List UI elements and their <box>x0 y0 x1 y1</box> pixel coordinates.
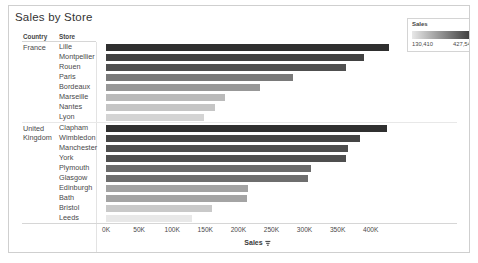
x-axis-tick-label: 200K <box>231 226 246 233</box>
x-axis-tick-label: 300K <box>297 226 312 233</box>
store-label[interactable]: Paris <box>59 72 76 82</box>
legend-max-value: 427,549 <box>453 41 470 47</box>
store-label[interactable]: Lille <box>59 42 72 52</box>
store-label[interactable]: Nantes <box>59 102 82 112</box>
bar-mark[interactable] <box>106 104 215 111</box>
x-axis[interactable]: Sales 0K50K100K150K200K250K300K350K400K <box>9 224 470 253</box>
column-header-store[interactable]: Store <box>59 33 75 40</box>
table-row[interactable]: Edinburgh <box>9 183 470 193</box>
store-label[interactable]: Montpellier <box>59 52 95 62</box>
store-label[interactable]: Clapham <box>59 123 88 133</box>
country-label[interactable]: UnitedKingdom <box>23 124 52 142</box>
table-row[interactable]: Bordeaux <box>9 82 470 92</box>
store-label[interactable]: York <box>59 153 73 163</box>
bar-mark[interactable] <box>106 165 311 172</box>
x-axis-tick-label: 100K <box>164 226 179 233</box>
table-row[interactable]: Bath <box>9 193 470 203</box>
bar-mark[interactable] <box>106 135 360 142</box>
table-row[interactable]: York <box>9 153 470 163</box>
legend-gradient-bar <box>412 31 470 39</box>
store-label[interactable]: Glasgow <box>59 173 87 183</box>
country-label-line: United <box>23 124 52 133</box>
legend-title: Sales <box>412 21 428 27</box>
worksheet-frame: Sales by Store Country Store LilleMontpe… <box>8 5 470 253</box>
x-axis-tick-label: 0K <box>102 226 110 233</box>
bar-mark[interactable] <box>106 215 192 222</box>
store-label[interactable]: Bristol <box>59 203 79 213</box>
bar-mark[interactable] <box>106 64 346 71</box>
store-label[interactable]: Bordeaux <box>59 82 90 92</box>
table-row[interactable]: Manchester <box>9 143 470 153</box>
table-row[interactable]: Leeds <box>9 213 470 223</box>
axis-title-sales[interactable]: Sales <box>244 239 271 247</box>
store-label[interactable]: Leeds <box>59 213 79 223</box>
table-row[interactable]: Paris <box>9 72 470 82</box>
table-row[interactable]: Lyon <box>9 112 470 122</box>
country-label[interactable]: France <box>23 43 46 52</box>
bar-mark[interactable] <box>106 205 212 212</box>
bar-mark[interactable] <box>106 195 247 202</box>
bar-mark[interactable] <box>106 84 260 91</box>
bar-mark[interactable] <box>106 125 387 132</box>
x-axis-tick-label: 50K <box>133 226 145 233</box>
store-label[interactable]: Bath <box>59 193 74 203</box>
table-row[interactable]: Wimbledon <box>9 133 470 143</box>
country-label-line: Kingdom <box>23 133 52 142</box>
bar-mark[interactable] <box>106 155 346 162</box>
bar-mark[interactable] <box>106 44 389 51</box>
bar-mark[interactable] <box>106 114 204 121</box>
table-row[interactable]: Bristol <box>9 203 470 213</box>
bar-mark[interactable] <box>106 175 308 182</box>
table-row[interactable]: Rouen <box>9 62 470 72</box>
column-header-country[interactable]: Country <box>23 33 47 40</box>
chart-pane: LilleMontpellierRouenParisBordeauxMarsei… <box>9 42 470 224</box>
page-title: Sales by Store <box>15 11 93 23</box>
store-label[interactable]: Marseille <box>59 92 88 102</box>
table-row[interactable]: Nantes <box>9 102 470 112</box>
bar-mark[interactable] <box>106 145 348 152</box>
bar-mark[interactable] <box>106 185 248 192</box>
x-axis-tick-label: 350K <box>330 226 345 233</box>
store-label[interactable]: Lyon <box>59 112 75 122</box>
store-label[interactable]: Edinburgh <box>59 183 92 193</box>
store-label[interactable]: Rouen <box>59 62 81 72</box>
table-row[interactable]: Montpellier <box>9 52 470 62</box>
color-legend[interactable]: Sales 130,410 427,549 <box>407 18 470 52</box>
bar-mark[interactable] <box>106 94 225 101</box>
country-label-line: France <box>23 43 46 52</box>
table-row[interactable]: Clapham <box>9 123 470 133</box>
store-label[interactable]: Wimbledon <box>59 133 96 143</box>
store-label[interactable]: Plymouth <box>59 163 89 173</box>
x-axis-tick-label: 250K <box>264 226 279 233</box>
table-row[interactable]: Glasgow <box>9 173 470 183</box>
table-row[interactable]: Marseille <box>9 92 470 102</box>
table-row[interactable]: Lille <box>9 42 470 52</box>
sort-descending-icon[interactable] <box>265 240 272 247</box>
bar-mark[interactable] <box>106 74 293 81</box>
table-row[interactable]: Plymouth <box>9 163 470 173</box>
store-label[interactable]: Manchester <box>59 143 97 153</box>
bar-mark[interactable] <box>106 54 364 61</box>
legend-min-value: 130,410 <box>412 41 433 47</box>
x-axis-tick-label: 400K <box>363 226 378 233</box>
axis-title-label: Sales <box>244 239 262 246</box>
x-axis-tick-label: 150K <box>198 226 213 233</box>
